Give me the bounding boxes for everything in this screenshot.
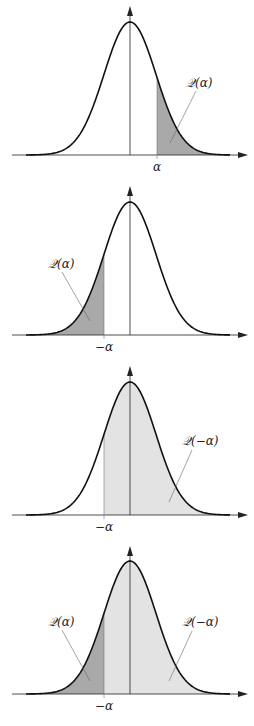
q-function-label: 𝒬(−α)	[182, 434, 219, 448]
alpha-tick-label: −α	[95, 699, 113, 713]
x-axis-arrow-icon	[238, 332, 248, 338]
annotation-leader-line	[62, 630, 90, 681]
y-axis-arrow-icon	[127, 186, 133, 196]
annotation-leader-line	[170, 91, 196, 143]
gaussian-tail-figure: α𝒬(α)−α𝒬(α)−α𝒬(−α)−α𝒬(α)𝒬(−α)	[0, 0, 254, 726]
light-shaded-region	[104, 382, 248, 515]
q-function-label: 𝒬(α)	[48, 257, 75, 271]
q-function-label: 𝒬(α)	[186, 76, 213, 90]
panel-2: −α𝒬(α)	[12, 186, 248, 354]
y-axis-arrow-icon	[127, 366, 133, 376]
alpha-tick-label: α	[153, 160, 161, 174]
q-function-label: 𝒬(α)	[48, 615, 75, 629]
x-axis-arrow-icon	[238, 691, 248, 697]
panel-1: α𝒬(α)	[12, 6, 248, 174]
y-axis-arrow-icon	[127, 546, 133, 556]
panel-4: −α𝒬(α)𝒬(−α)	[12, 546, 248, 713]
alpha-tick-label: −α	[95, 340, 113, 354]
light-shaded-region	[104, 561, 248, 694]
x-axis-arrow-icon	[238, 512, 248, 518]
y-axis-arrow-icon	[127, 6, 133, 16]
annotation-leader-line	[62, 272, 90, 321]
panel-3: −α𝒬(−α)	[12, 366, 248, 534]
q-function-label: 𝒬(−α)	[182, 615, 219, 629]
x-axis-arrow-icon	[238, 152, 248, 158]
alpha-tick-label: −α	[95, 520, 113, 534]
